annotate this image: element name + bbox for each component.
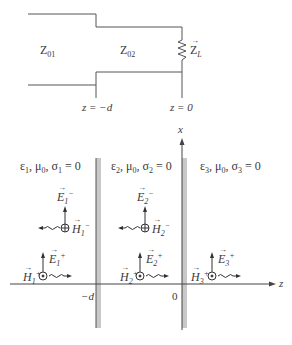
e1-plus-arrow-icon <box>41 252 45 272</box>
z-axis-label: z <box>279 278 283 289</box>
marker-zero: z = 0 <box>170 102 193 113</box>
zl-label: ZL <box>190 44 202 59</box>
region-3-properties: ε3, μ0, σ3 = 0 <box>200 160 261 175</box>
tick-minus-d-label: −d <box>81 291 94 302</box>
boundary-plane-minus-d <box>96 158 101 328</box>
e2-minus-label: E2− <box>137 190 154 206</box>
z-axis <box>10 282 276 287</box>
z01-label: Z01 <box>40 44 55 59</box>
marker-minus-d: z = −d <box>82 102 112 113</box>
h2-minus-into-page-icon <box>141 224 149 232</box>
e2-minus-arrow-icon <box>143 206 147 224</box>
e3-plus-arrow-icon <box>210 252 214 272</box>
x-axis-label: x <box>178 124 183 135</box>
region-1-properties: ε1, μ0, σ1 = 0 <box>20 160 81 175</box>
e3-plus-label: E3+ <box>218 252 235 268</box>
h2-minus-label: H2− <box>152 222 170 238</box>
z02-label: Z02 <box>120 44 135 59</box>
h1-plus-label: H1+ <box>23 270 41 286</box>
boundary-plane-zero <box>182 158 187 328</box>
wave-right-3-icon <box>218 275 238 278</box>
wave-right-1-icon <box>49 275 69 278</box>
h1-minus-label: H1− <box>72 222 90 238</box>
h3-plus-label: H3+ <box>191 270 209 286</box>
e2-plus-label: E2+ <box>146 252 163 268</box>
region-2-properties: ε2, μ0, σ2 = 0 <box>111 160 172 175</box>
h2-plus-label: H2+ <box>120 270 138 286</box>
tick-zero-label: 0 <box>172 291 178 302</box>
h1-minus-into-page-icon <box>61 224 69 232</box>
wave-right-2-icon <box>146 275 166 278</box>
e2-plus-arrow-icon <box>138 252 142 272</box>
e1-minus-label: E1− <box>57 190 74 206</box>
e1-minus-arrow-icon <box>63 206 67 224</box>
e1-plus-label: E1+ <box>49 252 66 268</box>
h3-plus-out-of-page-icon <box>208 272 216 280</box>
load-resistor-icon <box>178 40 186 60</box>
